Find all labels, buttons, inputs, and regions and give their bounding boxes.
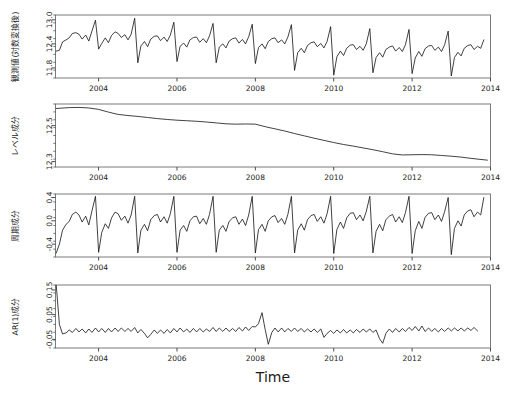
panel-2: 12.312.5200420062008201020122014レベル成分 xyxy=(10,104,500,182)
panel-2-xtick-label: 2008 xyxy=(246,173,265,182)
panel-1: 11.812.413.0200420062008201020122014観測値(… xyxy=(10,11,500,93)
panel-4-ytick-label: 0.15 xyxy=(45,281,54,298)
panel-1-ylabel: 観測値(対数変換後) xyxy=(10,11,20,81)
panel-2-ylabel: レベル成分 xyxy=(10,116,20,156)
panel-1-ytick-label: 13.0 xyxy=(45,11,54,28)
panel-2-xtick-label: 2014 xyxy=(481,173,500,182)
panel-1-box xyxy=(56,15,491,78)
panel-3-xtick-label: 2008 xyxy=(246,263,265,272)
panel-4-xtick-label: 2014 xyxy=(481,354,500,363)
plot-canvas: 11.812.413.0200420062008201020122014観測値(… xyxy=(0,0,509,397)
panel-1-xtick-label: 2014 xyxy=(481,84,500,93)
panel-2-ytick-label: 12.5 xyxy=(45,117,54,134)
panel-2-series-line xyxy=(56,107,487,160)
panel-2-xtick-label: 2004 xyxy=(89,173,108,182)
panel-4-box xyxy=(56,285,491,348)
panel-2-ytick-label: 12.3 xyxy=(45,153,54,170)
panel-3-ytick-label: -0.4 xyxy=(45,237,54,252)
panel-3-series-line xyxy=(56,196,484,254)
panel-3-ytick-label: 0.0 xyxy=(45,215,54,227)
panel-1-xtick-label: 2004 xyxy=(89,84,108,93)
panel-4-ytick-label: 0.05 xyxy=(45,306,54,323)
panel-1-xtick-label: 2010 xyxy=(324,84,343,93)
panel-3-xtick-label: 2004 xyxy=(89,263,108,272)
panel-4-ylabel: AR(1)成分 xyxy=(10,298,20,336)
panel-3-box xyxy=(56,194,491,257)
panel-3-xtick-label: 2006 xyxy=(167,263,186,272)
panel-4-xtick-label: 2008 xyxy=(246,354,265,363)
panel-1-xtick-label: 2006 xyxy=(167,84,186,93)
x-axis-title: Time xyxy=(255,369,290,385)
panel-3-xtick-label: 2010 xyxy=(324,263,343,272)
panel-2-xtick-label: 2010 xyxy=(324,173,343,182)
panel-4: -0.050.050.15200420062008201020122014AR(… xyxy=(10,281,500,363)
panel-4-xtick-label: 2004 xyxy=(89,354,108,363)
timeseries-decomposition-figure: 11.812.413.0200420062008201020122014観測値(… xyxy=(0,0,509,397)
panel-4-xtick-label: 2012 xyxy=(403,354,422,363)
panel-3-ylabel: 周期成分 xyxy=(10,210,20,242)
panel-1-xtick-label: 2012 xyxy=(403,84,422,93)
panel-4-xtick-label: 2006 xyxy=(167,354,186,363)
panel-3: -0.40.00.4200420062008201020122014周期成分 xyxy=(10,191,500,272)
panel-2-xtick-label: 2012 xyxy=(403,173,422,182)
panel-2-xtick-label: 2006 xyxy=(167,173,186,182)
panel-1-ytick-label: 12.4 xyxy=(45,35,54,52)
panel-1-ytick-label: 11.8 xyxy=(45,59,54,76)
panel-1-xtick-label: 2008 xyxy=(246,84,265,93)
panel-4-xtick-label: 2010 xyxy=(324,354,343,363)
panel-3-xtick-label: 2014 xyxy=(481,263,500,272)
panel-2-box xyxy=(56,104,491,167)
panel-4-ytick-label: -0.05 xyxy=(45,329,54,349)
panel-3-xtick-label: 2012 xyxy=(403,263,422,272)
panel-3-ytick-label: 0.4 xyxy=(45,191,54,203)
panel-1-series-line xyxy=(56,18,484,76)
panel-4-series-line xyxy=(56,285,477,344)
